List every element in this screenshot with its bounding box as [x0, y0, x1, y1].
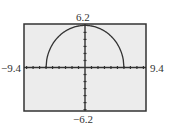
- graph-screen: [0, 0, 169, 134]
